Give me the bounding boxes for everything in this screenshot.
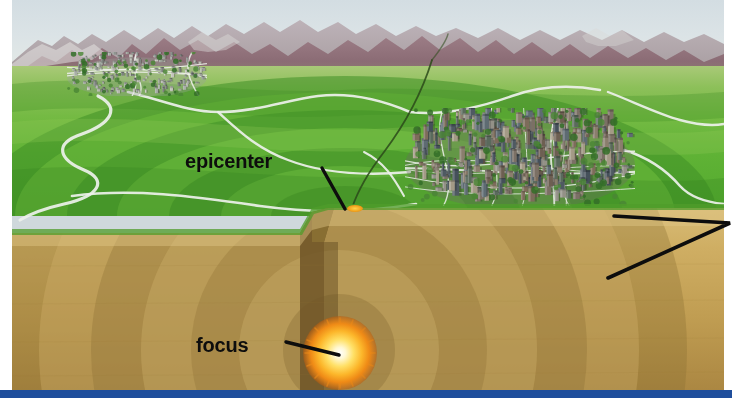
focus-burst xyxy=(303,316,377,390)
figure-left-edge xyxy=(0,0,12,390)
label-epicenter: epicenter xyxy=(185,150,272,173)
epicenter-marker xyxy=(347,205,363,212)
diagram-stage: epicenter focus xyxy=(0,0,732,416)
bottom-white-margin xyxy=(0,398,732,416)
earthquake-illustration xyxy=(12,0,724,390)
figure-right-edge xyxy=(724,0,732,390)
label-focus: focus xyxy=(196,334,248,357)
distant-city xyxy=(67,52,207,96)
